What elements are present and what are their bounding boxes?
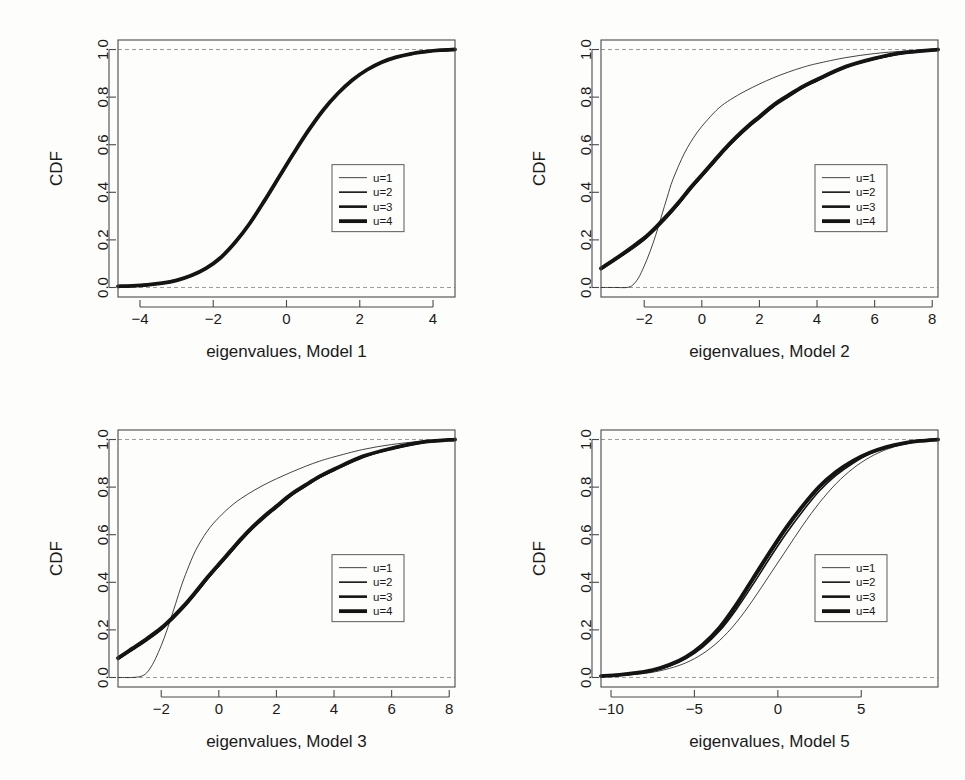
legend-label-u=2: u=2 <box>856 186 876 198</box>
x-tick-label: 4 <box>330 700 338 717</box>
legend-label-u=3: u=3 <box>856 201 876 213</box>
x-tick-label: 0 <box>774 700 782 717</box>
panel-model-2: 0.00.20.40.60.81.0−202468eigenvalues, Mo… <box>483 0 965 390</box>
legend-label-u=1: u=1 <box>856 562 876 574</box>
x-tick-label: 2 <box>272 700 280 717</box>
legend-label-u=1: u=1 <box>373 172 393 184</box>
y-tick-label: 0.0 <box>95 667 112 688</box>
legend-label-u=4: u=4 <box>373 605 393 617</box>
legend-label-u=1: u=1 <box>373 562 393 574</box>
y-tick-label: 0.4 <box>578 572 595 593</box>
x-tick-label: −2 <box>636 310 653 327</box>
chart-svg: 0.00.20.40.60.81.0−202468eigenvalues, Mo… <box>0 390 483 780</box>
y-axis-title: CDF <box>530 541 549 576</box>
y-tick-label: 0.8 <box>95 477 112 498</box>
y-tick-label: 0.2 <box>578 619 595 640</box>
chart-legend: u=1u=2u=3u=4 <box>815 555 887 622</box>
x-tick-label: 5 <box>857 700 865 717</box>
y-tick-label: 1.0 <box>578 429 595 450</box>
y-tick-label: 1.0 <box>95 39 112 60</box>
y-tick-label: 0.6 <box>578 524 595 545</box>
legend-label-u=4: u=4 <box>856 215 876 227</box>
figure-grid: 0.00.20.40.60.81.0−4−2024eigenvalues, Mo… <box>0 0 965 780</box>
x-tick-label: 2 <box>755 310 763 327</box>
x-tick-label: 0 <box>215 700 223 717</box>
curve-u=2 <box>601 50 938 270</box>
legend-label-u=2: u=2 <box>856 576 876 588</box>
x-tick-label: −2 <box>153 700 170 717</box>
panel-model-5: 0.00.20.40.60.81.0−10−505eigenvalues, Mo… <box>483 390 965 780</box>
y-tick-label: 0.6 <box>95 134 112 155</box>
x-tick-label: 4 <box>429 310 437 327</box>
x-tick-label: 8 <box>928 310 936 327</box>
panel-model-3: 0.00.20.40.60.81.0−202468eigenvalues, Mo… <box>0 390 483 780</box>
x-axis-title: eigenvalues, Model 2 <box>689 342 850 361</box>
chart-svg: 0.00.20.40.60.81.0−4−2024eigenvalues, Mo… <box>0 0 483 390</box>
x-tick-label: −2 <box>205 310 222 327</box>
x-tick-label: 0 <box>282 310 290 327</box>
chart-svg: 0.00.20.40.60.81.0−202468eigenvalues, Mo… <box>483 0 965 390</box>
y-tick-label: 0.8 <box>578 477 595 498</box>
legend-label-u=4: u=4 <box>856 605 876 617</box>
y-tick-label: 0.2 <box>578 229 595 250</box>
curve-u=3 <box>601 50 938 269</box>
y-tick-label: 0.0 <box>95 277 112 298</box>
y-axis-title: CDF <box>47 151 66 186</box>
legend-label-u=1: u=1 <box>856 172 876 184</box>
legend-label-u=4: u=4 <box>373 215 393 227</box>
y-tick-label: 0.6 <box>578 134 595 155</box>
x-tick-label: −5 <box>686 700 703 717</box>
panel-model-1: 0.00.20.40.60.81.0−4−2024eigenvalues, Mo… <box>0 0 483 390</box>
legend-label-u=3: u=3 <box>373 201 393 213</box>
legend-label-u=3: u=3 <box>373 591 393 603</box>
x-tick-label: 8 <box>445 700 453 717</box>
y-tick-label: 0.2 <box>95 619 112 640</box>
y-tick-label: 0.4 <box>95 572 112 593</box>
x-tick-label: 6 <box>387 700 395 717</box>
chart-legend: u=1u=2u=3u=4 <box>815 165 887 232</box>
x-tick-label: −4 <box>131 310 148 327</box>
y-tick-label: 0.4 <box>95 182 112 203</box>
x-axis-title: eigenvalues, Model 3 <box>206 732 367 751</box>
y-tick-label: 0.2 <box>95 229 112 250</box>
y-tick-label: 1.0 <box>95 429 112 450</box>
y-tick-label: 0.4 <box>578 182 595 203</box>
chart-legend: u=1u=2u=3u=4 <box>332 555 404 622</box>
x-tick-label: 2 <box>356 310 364 327</box>
legend-label-u=3: u=3 <box>856 591 876 603</box>
y-axis-title: CDF <box>530 151 549 186</box>
legend-label-u=2: u=2 <box>373 576 393 588</box>
legend-label-u=2: u=2 <box>373 186 393 198</box>
y-tick-label: 0.8 <box>95 87 112 108</box>
curve-u=4 <box>601 50 938 269</box>
y-tick-label: 0.6 <box>95 524 112 545</box>
y-tick-label: 0.0 <box>578 667 595 688</box>
y-tick-label: 0.0 <box>578 277 595 298</box>
y-axis-title: CDF <box>47 541 66 576</box>
chart-svg: 0.00.20.40.60.81.0−10−505eigenvalues, Mo… <box>483 390 965 780</box>
y-tick-label: 1.0 <box>578 39 595 60</box>
x-axis-title: eigenvalues, Model 1 <box>206 342 367 361</box>
x-tick-label: −10 <box>598 700 623 717</box>
y-tick-label: 0.8 <box>578 87 595 108</box>
x-tick-label: 4 <box>813 310 821 327</box>
x-tick-label: 0 <box>698 310 706 327</box>
x-axis-title: eigenvalues, Model 5 <box>689 732 850 751</box>
chart-legend: u=1u=2u=3u=4 <box>332 165 404 232</box>
x-tick-label: 6 <box>870 310 878 327</box>
